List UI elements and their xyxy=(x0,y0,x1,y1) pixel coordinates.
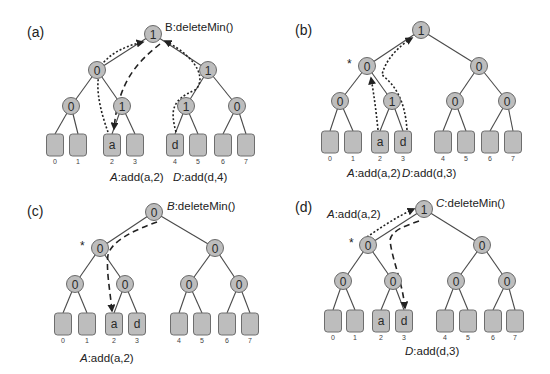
node-value: 0 xyxy=(337,95,344,109)
level2-node: 0 xyxy=(67,276,84,293)
level1-node: 0 xyxy=(471,58,488,75)
tree-edges xyxy=(63,212,250,313)
leaf-slot: a xyxy=(104,134,121,156)
leaf-slot xyxy=(347,310,364,332)
leaf-slot xyxy=(219,313,236,335)
leaf-index: 2 xyxy=(378,155,382,162)
root-node: 1 xyxy=(416,201,433,218)
leaf-item: a xyxy=(109,138,116,152)
root-node: 1 xyxy=(413,22,430,39)
leaf-index: 1 xyxy=(85,337,89,344)
leaf-item: a xyxy=(111,317,118,331)
operation-label: B:deleteMin() xyxy=(167,200,236,212)
node-value: 0 xyxy=(68,100,75,114)
star-marker: * xyxy=(347,57,352,71)
level1-node: 1 xyxy=(200,62,217,79)
leaf-index: 3 xyxy=(135,337,139,344)
tree-edges xyxy=(330,30,513,131)
level2-node: 1 xyxy=(178,98,195,115)
leaf-slot xyxy=(505,131,522,153)
leaf-index: 6 xyxy=(225,337,229,344)
level2-node: 0 xyxy=(117,276,134,293)
level2-node: 0 xyxy=(335,273,352,290)
node-value: 0 xyxy=(452,95,459,109)
leaf-index: 0 xyxy=(61,337,65,344)
operation-label: B:deleteMin() xyxy=(165,21,234,33)
panel-label: (b) xyxy=(295,22,312,38)
leaf-index: 0 xyxy=(331,334,335,341)
leaf-item: d xyxy=(134,317,141,331)
leaf-index: 7 xyxy=(513,334,517,341)
leaf-slot xyxy=(345,131,362,153)
level1-node: 0 xyxy=(207,240,224,257)
leaf-item: a xyxy=(378,314,385,328)
leaf-index: 2 xyxy=(110,158,114,165)
leaf-slot xyxy=(507,310,524,332)
node-value: 0 xyxy=(340,275,347,289)
level2-node: 0 xyxy=(229,98,246,115)
leaf-slot xyxy=(460,310,477,332)
dashed-arrow xyxy=(107,222,157,311)
leaf-slot xyxy=(238,134,255,156)
node-value: 0 xyxy=(479,239,486,253)
leaf-item: a xyxy=(377,135,384,149)
leaf-index: 1 xyxy=(353,334,357,341)
leaf-slot xyxy=(171,313,188,335)
operation-label: A:add(a,2) xyxy=(346,167,401,179)
leaf-index: 4 xyxy=(177,337,181,344)
leaf-slot xyxy=(325,310,342,332)
node-value: 0 xyxy=(390,275,397,289)
node-value: 0 xyxy=(72,278,79,292)
node-value: 0 xyxy=(476,60,483,74)
root-node: 1 xyxy=(145,26,162,43)
level2-node: 0 xyxy=(499,93,516,110)
leaf-slot: a xyxy=(373,310,390,332)
level1-node: 0 xyxy=(360,237,377,254)
node-value: 1 xyxy=(150,28,157,42)
node-value: 0 xyxy=(122,278,129,292)
panel-b: (b)100010001a2d34567*A:add(a,2)D:add(d,3… xyxy=(295,22,522,180)
leaf-slot xyxy=(437,310,454,332)
node-value: 0 xyxy=(151,206,158,220)
leaf-slot xyxy=(194,313,211,335)
panel-label: (a) xyxy=(27,24,44,40)
node-value: 0 xyxy=(212,242,219,256)
leaf-index: 3 xyxy=(401,155,405,162)
leaf-item: d xyxy=(172,138,179,152)
leaf-index: 5 xyxy=(464,155,468,162)
leaf-slot xyxy=(242,313,259,335)
leaf-slot xyxy=(482,131,499,153)
level1-node: 0 xyxy=(92,240,109,257)
level2-node: 0 xyxy=(448,273,465,290)
node-value: 0 xyxy=(504,95,511,109)
panel-label: (d) xyxy=(295,199,312,215)
leaf-item: d xyxy=(401,314,408,328)
leaf-index: 4 xyxy=(443,334,447,341)
leaf-index: 7 xyxy=(244,158,248,165)
leaf-index: 6 xyxy=(491,334,495,341)
node-value: 1 xyxy=(205,64,212,78)
node-value: 0 xyxy=(186,278,193,292)
level2-node: 0 xyxy=(447,93,464,110)
leaf-index: 4 xyxy=(173,158,177,165)
leaf-index: 6 xyxy=(488,155,492,162)
panel-d: (d)100000001a2d34567*C:deleteMin()A:add(… xyxy=(295,197,524,357)
dashed-arrow xyxy=(390,221,419,308)
level2-node: 0 xyxy=(499,273,516,290)
operation-label: D:add(d,4) xyxy=(173,171,228,183)
node-value: 1 xyxy=(421,203,428,217)
panel-c: (c)000000001a2d34567*B:deleteMin()A:add(… xyxy=(27,200,259,364)
operation-label: A:add(a,2) xyxy=(326,208,381,220)
node-value: 0 xyxy=(97,242,104,256)
leaf-slot xyxy=(47,134,64,156)
leaf-index: 3 xyxy=(133,158,137,165)
leaf-slot: d xyxy=(395,131,412,153)
node-value: 1 xyxy=(389,95,396,109)
dotted-arrow xyxy=(165,41,200,132)
node-value: 1 xyxy=(418,24,425,38)
node-value: 0 xyxy=(504,275,511,289)
level2-node: 1 xyxy=(114,98,131,115)
leaf-slot xyxy=(458,131,475,153)
leaf-slot xyxy=(127,134,144,156)
operation-label: C:deleteMin() xyxy=(436,197,505,209)
